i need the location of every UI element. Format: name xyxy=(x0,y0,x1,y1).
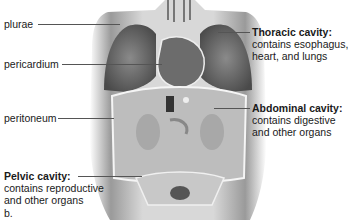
pelvic-title: Pelvic cavity: xyxy=(4,170,71,182)
pelvic-desc-1: contains reproductive xyxy=(4,182,104,194)
leader-line-thoracic xyxy=(218,32,250,33)
label-pericardium: pericardium xyxy=(4,58,59,70)
thoracic-desc-2: heart, and lungs xyxy=(252,50,327,62)
label-thoracic-cavity: Thoracic cavity: contains esophagus, hea… xyxy=(252,26,348,62)
leader-line-pericardium xyxy=(62,64,162,65)
label-peritoneum: peritoneum xyxy=(4,112,57,124)
leader-line-abdominal xyxy=(214,108,250,109)
leader-line-pelvic xyxy=(78,176,142,177)
abdominal-desc-2: and other organs xyxy=(252,126,331,138)
subfigure-label: b. xyxy=(4,207,13,219)
label-abdominal-cavity: Abdominal cavity: contains digestive and… xyxy=(252,102,342,138)
thoracic-desc-1: contains esophagus, xyxy=(252,38,348,50)
leader-line-peritoneum xyxy=(58,118,114,119)
leader-line-plurae xyxy=(38,24,120,25)
pelvic-desc-2: and other organs xyxy=(4,194,83,206)
thoracic-title: Thoracic cavity: xyxy=(252,26,332,38)
abdominal-title: Abdominal cavity: xyxy=(252,102,342,114)
abdominal-desc-1: contains digestive xyxy=(252,114,335,126)
label-plurae: plurae xyxy=(4,18,33,30)
